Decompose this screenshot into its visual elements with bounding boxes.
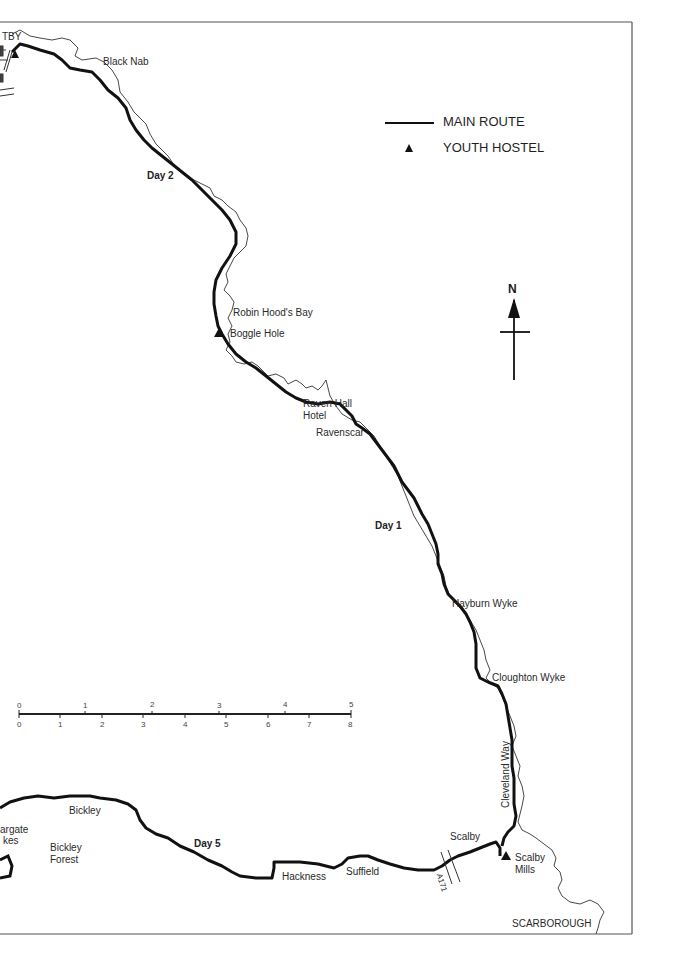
scale-km-5: 5 bbox=[224, 720, 228, 729]
label-scalby: Scalby bbox=[450, 831, 480, 842]
scale-mile-2: 2 bbox=[150, 700, 154, 709]
north-arrow-icon bbox=[500, 298, 530, 380]
scale-km-0: 0 bbox=[17, 720, 21, 729]
label-bickley-forest-2: Forest bbox=[50, 854, 78, 865]
label-day-2: Day 2 bbox=[147, 170, 174, 181]
main-route-loop-west bbox=[0, 856, 12, 878]
label-scarborough: SCARBOROUGH bbox=[512, 918, 591, 929]
scale-km-3: 3 bbox=[141, 720, 145, 729]
legend-main-route-label: MAIN ROUTE bbox=[443, 114, 525, 129]
label-raven-hall-hotel-1: Raven Hall bbox=[303, 398, 352, 409]
scale-km-6: 6 bbox=[266, 720, 270, 729]
label-bickley-forest-1: Bickley bbox=[50, 842, 82, 853]
label-raven-hall-hotel-2: Hotel bbox=[303, 410, 326, 421]
label-whitby: TBY bbox=[2, 31, 21, 42]
scale-km-4: 4 bbox=[183, 720, 187, 729]
label-cloughton-wyke: Cloughton Wyke bbox=[492, 672, 565, 683]
label-langdale-end-1: argate bbox=[0, 824, 28, 835]
legend-hostel-triangle-icon bbox=[405, 144, 413, 152]
scale-mile-3: 3 bbox=[217, 701, 221, 710]
scale-km-2: 2 bbox=[100, 720, 104, 729]
north-label: N bbox=[508, 282, 517, 296]
scale-mile-5: 5 bbox=[349, 700, 353, 709]
main-route-coast bbox=[12, 44, 516, 846]
label-scalby-mills-1: Scalby bbox=[515, 852, 545, 863]
label-black-nab: Black Nab bbox=[103, 56, 149, 67]
label-hayburn-wyke: Hayburn Wyke bbox=[452, 598, 518, 609]
scale-mile-1: 1 bbox=[83, 701, 87, 710]
scale-mile-4: 4 bbox=[283, 700, 287, 709]
map-canvas bbox=[0, 0, 684, 972]
scale-km-1: 1 bbox=[58, 720, 62, 729]
label-ravenscar: Ravenscar bbox=[316, 427, 364, 438]
legend-youth-hostel-label: YOUTH HOSTEL bbox=[443, 140, 544, 155]
label-robin-hoods-bay: Robin Hood's Bay bbox=[233, 307, 313, 318]
whitby-town-fragment bbox=[0, 46, 14, 96]
scale-km-7: 7 bbox=[307, 720, 311, 729]
label-bickley: Bickley bbox=[69, 805, 101, 816]
label-scalby-mills-2: Mills bbox=[515, 864, 535, 875]
scale-mile-0: 0 bbox=[17, 701, 21, 710]
label-boggle-hole: Boggle Hole bbox=[230, 328, 284, 339]
label-suffield: Suffield bbox=[346, 866, 379, 877]
hostel-scalby-mills-icon bbox=[501, 851, 511, 860]
scale-bar bbox=[19, 710, 351, 718]
label-hackness: Hackness bbox=[282, 871, 326, 882]
label-day-5: Day 5 bbox=[194, 838, 221, 849]
label-langdale-end-2: kes bbox=[3, 835, 19, 846]
label-day-1: Day 1 bbox=[375, 520, 402, 531]
youth-hostel-markers bbox=[11, 50, 511, 860]
label-cleveland-way: Cleveland Way bbox=[500, 741, 511, 808]
scale-km-8: 8 bbox=[348, 720, 352, 729]
